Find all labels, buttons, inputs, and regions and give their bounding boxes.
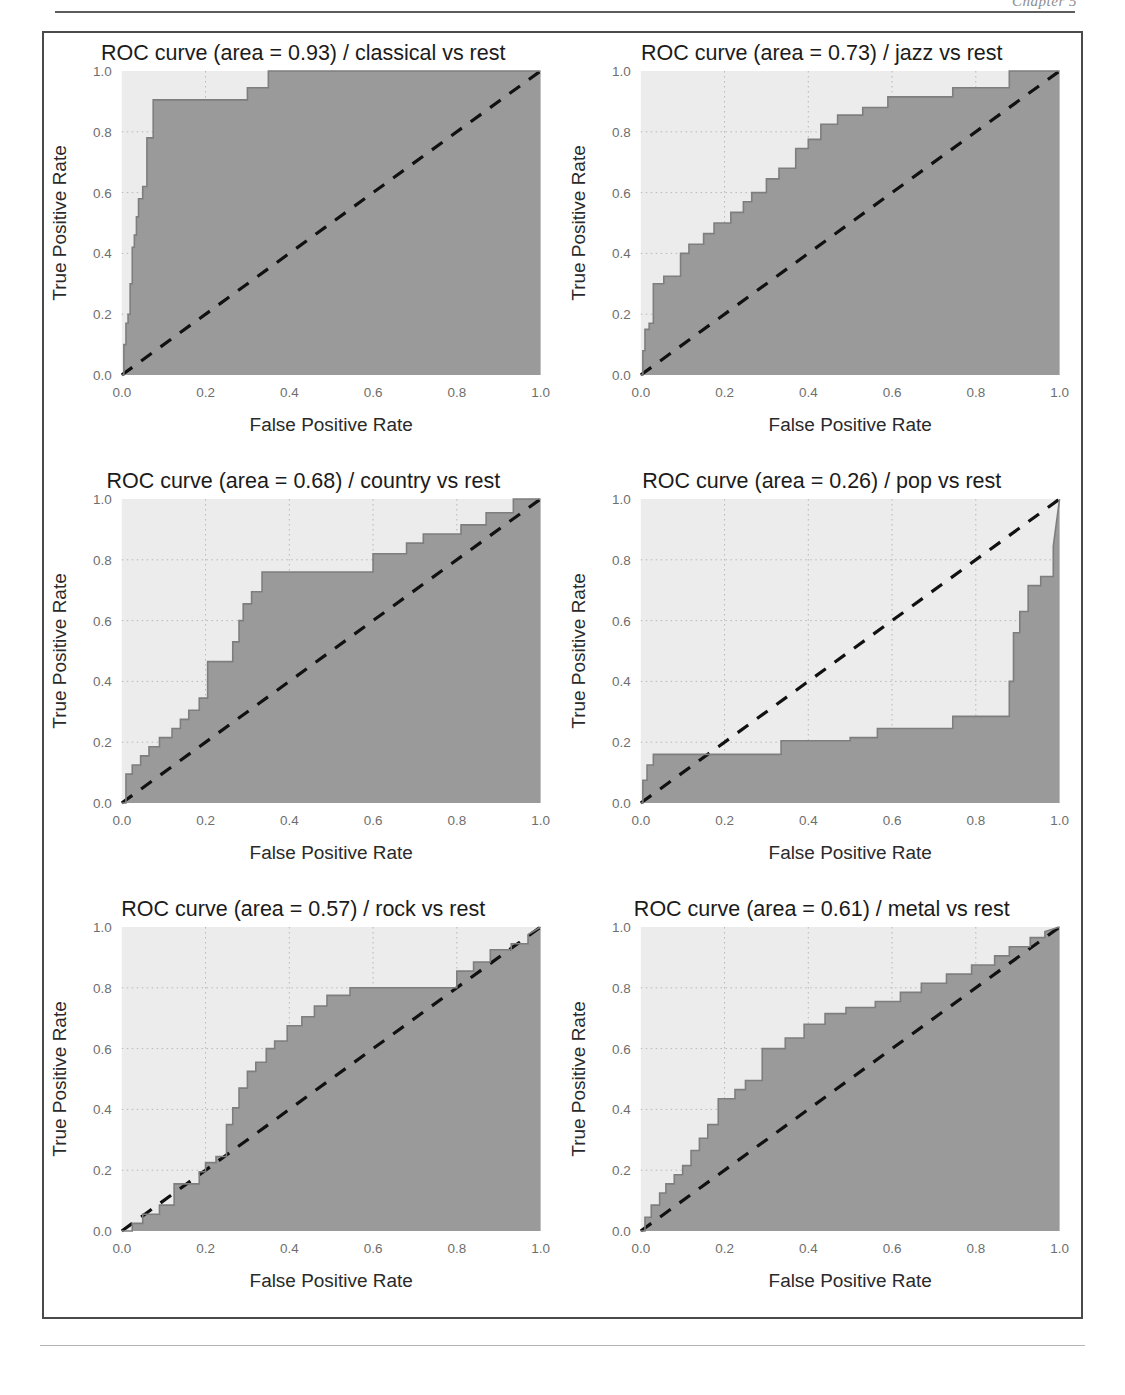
x-axis-label: False Positive Rate: [250, 414, 413, 435]
x-tick-label: 0.0: [631, 1241, 650, 1256]
page-bottom-rule: [40, 1345, 1085, 1346]
x-tick-label: 0.4: [798, 385, 817, 400]
chart-cell-country: ROC curve (area = 0.68) / country vs res…: [44, 461, 563, 889]
x-tick-label: 1.0: [531, 1241, 550, 1256]
x-tick-label: 0.4: [280, 813, 299, 828]
roc-plot-jazz: 0.00.20.40.60.81.00.00.20.40.60.81.0Fals…: [563, 59, 1082, 459]
y-tick-label: 0.0: [93, 368, 112, 383]
y-tick-label: 0.0: [612, 368, 631, 383]
y-tick-label: 1.0: [612, 920, 631, 935]
x-tick-label: 1.0: [1050, 385, 1069, 400]
chart-cell-rock: ROC curve (area = 0.57) / rock vs rest0.…: [44, 889, 563, 1317]
x-tick-label: 0.2: [196, 813, 215, 828]
y-tick-label: 0.6: [612, 614, 631, 629]
y-axis-label: True Positive Rate: [49, 1001, 70, 1157]
y-tick-label: 0.6: [93, 614, 112, 629]
x-axis-label: False Positive Rate: [768, 414, 931, 435]
y-tick-label: 0.8: [93, 553, 112, 568]
x-tick-label: 0.0: [112, 1241, 131, 1256]
y-tick-label: 0.4: [93, 1102, 112, 1117]
x-tick-label: 1.0: [531, 385, 550, 400]
x-tick-label: 0.4: [280, 385, 299, 400]
x-tick-label: 0.6: [882, 813, 901, 828]
y-tick-label: 0.4: [612, 246, 631, 261]
x-axis-label: False Positive Rate: [768, 1270, 931, 1291]
x-tick-label: 0.8: [966, 813, 985, 828]
chart-cell-pop: ROC curve (area = 0.26) / pop vs rest0.0…: [563, 461, 1082, 889]
y-tick-label: 1.0: [612, 64, 631, 79]
y-axis-label: True Positive Rate: [49, 145, 70, 301]
x-tick-label: 0.2: [196, 385, 215, 400]
x-tick-label: 0.4: [798, 813, 817, 828]
y-tick-label: 0.0: [612, 796, 631, 811]
roc-figure-frame: ROC curve (area = 0.93) / classical vs r…: [42, 31, 1083, 1319]
x-tick-label: 0.8: [447, 385, 466, 400]
y-tick-label: 0.0: [612, 1224, 631, 1239]
x-tick-label: 0.6: [364, 385, 383, 400]
x-axis-label: False Positive Rate: [768, 842, 931, 863]
chart-cell-classical: ROC curve (area = 0.93) / classical vs r…: [44, 33, 563, 461]
y-tick-label: 0.0: [93, 1224, 112, 1239]
roc-plot-metal: 0.00.20.40.60.81.00.00.20.40.60.81.0Fals…: [563, 915, 1082, 1315]
y-tick-label: 0.8: [612, 553, 631, 568]
y-tick-label: 0.8: [93, 981, 112, 996]
x-axis-label: False Positive Rate: [250, 1270, 413, 1291]
y-axis-label: True Positive Rate: [49, 573, 70, 729]
roc-plot-country: 0.00.20.40.60.81.00.00.20.40.60.81.0Fals…: [44, 487, 563, 887]
y-tick-label: 0.2: [93, 307, 112, 322]
page-header-rule: [55, 11, 1075, 13]
y-tick-label: 0.8: [93, 125, 112, 140]
x-tick-label: 0.6: [364, 813, 383, 828]
y-tick-label: 0.8: [612, 981, 631, 996]
x-tick-label: 0.8: [447, 813, 466, 828]
x-tick-label: 0.4: [798, 1241, 817, 1256]
chart-cell-jazz: ROC curve (area = 0.73) / jazz vs rest0.…: [563, 33, 1082, 461]
y-tick-label: 0.4: [93, 674, 112, 689]
y-tick-label: 0.6: [93, 1042, 112, 1057]
y-tick-label: 0.2: [93, 735, 112, 750]
x-tick-label: 0.8: [447, 1241, 466, 1256]
y-tick-label: 0.2: [612, 735, 631, 750]
y-axis-label: True Positive Rate: [567, 145, 588, 301]
y-tick-label: 0.6: [612, 186, 631, 201]
y-tick-label: 1.0: [612, 492, 631, 507]
x-tick-label: 0.6: [364, 1241, 383, 1256]
y-tick-label: 1.0: [93, 492, 112, 507]
y-tick-label: 1.0: [93, 64, 112, 79]
roc-charts-grid: ROC curve (area = 0.93) / classical vs r…: [44, 33, 1081, 1317]
x-tick-label: 1.0: [1050, 813, 1069, 828]
x-tick-label: 0.8: [966, 1241, 985, 1256]
y-tick-label: 0.6: [93, 186, 112, 201]
chart-cell-metal: ROC curve (area = 0.61) / metal vs rest0…: [563, 889, 1082, 1317]
y-tick-label: 0.2: [612, 1163, 631, 1178]
page-header-text: Chapter 5: [1012, 0, 1077, 10]
y-tick-label: 0.4: [612, 1102, 631, 1117]
x-tick-label: 0.2: [715, 385, 734, 400]
x-axis-label: False Positive Rate: [250, 842, 413, 863]
y-tick-label: 0.0: [93, 796, 112, 811]
x-tick-label: 0.4: [280, 1241, 299, 1256]
roc-plot-classical: 0.00.20.40.60.81.00.00.20.40.60.81.0Fals…: [44, 59, 563, 459]
x-tick-label: 0.2: [715, 813, 734, 828]
y-tick-label: 0.4: [612, 674, 631, 689]
y-tick-label: 1.0: [93, 920, 112, 935]
y-axis-label: True Positive Rate: [567, 1001, 588, 1157]
y-tick-label: 0.6: [612, 1042, 631, 1057]
x-tick-label: 0.0: [631, 385, 650, 400]
x-tick-label: 0.2: [715, 1241, 734, 1256]
roc-plot-rock: 0.00.20.40.60.81.00.00.20.40.60.81.0Fals…: [44, 915, 563, 1315]
x-tick-label: 0.8: [966, 385, 985, 400]
x-tick-label: 1.0: [1050, 1241, 1069, 1256]
y-axis-label: True Positive Rate: [567, 573, 588, 729]
x-tick-label: 0.2: [196, 1241, 215, 1256]
y-tick-label: 0.2: [93, 1163, 112, 1178]
x-tick-label: 1.0: [531, 813, 550, 828]
roc-plot-pop: 0.00.20.40.60.81.00.00.20.40.60.81.0Fals…: [563, 487, 1082, 887]
y-tick-label: 0.4: [93, 246, 112, 261]
x-tick-label: 0.6: [882, 1241, 901, 1256]
x-tick-label: 0.0: [112, 813, 131, 828]
y-tick-label: 0.8: [612, 125, 631, 140]
x-tick-label: 0.0: [112, 385, 131, 400]
y-tick-label: 0.2: [612, 307, 631, 322]
x-tick-label: 0.6: [882, 385, 901, 400]
